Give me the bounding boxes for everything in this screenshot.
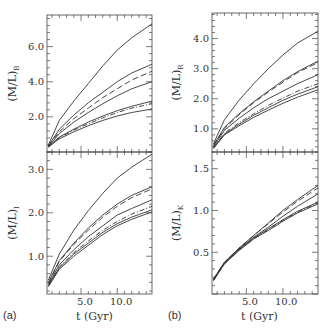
- panel-b-xtick-5: 5.0: [242, 296, 258, 307]
- figure: 2.04.06.0(M/L)B1.02.03.0(M/L)I1.02.03.04…: [0, 0, 331, 330]
- y-tick-label: 3.0: [28, 164, 44, 175]
- panel-b-xtick-10: 10.0: [275, 296, 297, 307]
- panel-b-xlabel: t (Gyr): [241, 310, 278, 323]
- panel-b-label: (b): [168, 309, 181, 321]
- plot-a-bottom: 1.02.03.0(M/L)I: [6, 152, 152, 294]
- y-tick-label: 1.5: [193, 163, 209, 174]
- series-solid-4: [214, 204, 319, 281]
- y-tick-label: 6.0: [28, 41, 44, 52]
- plot-frame: [47, 152, 152, 294]
- y-axis-label: (M/L)R: [170, 64, 185, 101]
- y-tick-label: 4.0: [193, 33, 209, 44]
- y-tick-label: 2.0: [28, 111, 44, 122]
- plot-b-bottom: 0.51.01.5(M/L)K: [170, 152, 318, 294]
- y-tick-label: 4.0: [28, 76, 44, 87]
- series-dashdot-1: [214, 203, 319, 281]
- panel-a-xlabel: t (Gyr): [76, 310, 113, 323]
- series-solid-5: [48, 212, 152, 287]
- y-tick-label: 1.0: [28, 251, 44, 262]
- series-solid-3: [48, 200, 152, 285]
- plot-frame: [47, 15, 152, 152]
- panel-a-xtick-5: 5.0: [77, 296, 93, 307]
- y-axis-label: (M/L)K: [170, 204, 185, 241]
- series-dashed-1: [214, 188, 319, 279]
- series-solid-4: [48, 210, 152, 286]
- series-solid-2: [214, 61, 319, 145]
- y-axis-label: (M/L)I: [6, 206, 21, 240]
- series-solid-4: [48, 101, 152, 147]
- series-solid-3: [214, 75, 319, 147]
- panel-a-label: (a): [3, 309, 16, 321]
- y-tick-label: 2.0: [193, 93, 209, 104]
- series-dashed-1: [214, 63, 319, 146]
- plot-b-top: 1.02.03.04.0(M/L)R: [170, 13, 318, 152]
- y-tick-label: 2.0: [28, 207, 44, 218]
- plot-frame: [212, 152, 318, 294]
- series-solid-1: [48, 24, 152, 145]
- y-axis-label: (M/L)B: [6, 65, 21, 101]
- series-solid-5: [214, 90, 319, 149]
- y-tick-label: 0.5: [193, 247, 209, 258]
- y-tick-label: 1.0: [193, 123, 209, 134]
- y-tick-label: 1.0: [193, 205, 209, 216]
- series-solid-3: [214, 202, 319, 280]
- series-solid-1: [214, 31, 319, 144]
- plot-a-top: 2.04.06.0(M/L)B: [6, 15, 152, 152]
- panel-a-xtick-10: 10.0: [110, 296, 132, 307]
- series-solid-2: [214, 194, 319, 280]
- y-tick-label: 3.0: [193, 63, 209, 74]
